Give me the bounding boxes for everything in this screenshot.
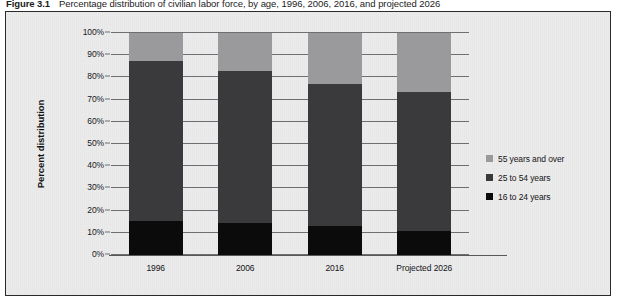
bar-slot: 1996 — [111, 33, 201, 255]
bar-slot: 2006 — [201, 33, 291, 255]
bar-segment[interactable] — [129, 33, 183, 61]
stacked-bar[interactable] — [308, 33, 362, 255]
bar-segment[interactable] — [218, 33, 272, 71]
bar-segment[interactable] — [308, 226, 362, 255]
y-axis-tick-label: 80% — [87, 71, 104, 81]
y-axis-title: Percent distribution — [35, 100, 46, 189]
x-axis-tick-label: Projected 2026 — [396, 263, 452, 273]
stacked-bar[interactable] — [397, 33, 451, 255]
x-axis-tick-label: 2016 — [325, 263, 344, 273]
legend-swatch — [486, 155, 493, 162]
bar-segment[interactable] — [129, 221, 183, 255]
plot-area: 0%10%20%30%40%50%60%70%80%90%100% 199620… — [111, 33, 469, 255]
y-axis-tick-mark — [105, 254, 110, 255]
y-axis-tick-mark — [105, 187, 110, 188]
y-axis-tick-label: 30% — [87, 182, 104, 192]
y-axis-tick-label: 0% — [92, 249, 104, 259]
y-axis-tick-mark — [105, 54, 110, 55]
y-axis-tick-mark — [105, 98, 110, 99]
bar-segment[interactable] — [397, 33, 451, 92]
bar-segment[interactable] — [308, 84, 362, 226]
x-axis-tick-label: 1996 — [146, 263, 165, 273]
y-axis-tick-mark — [105, 143, 110, 144]
bar-segment[interactable] — [218, 71, 272, 223]
stacked-bar[interactable] — [129, 33, 183, 255]
y-axis-tick-label: 70% — [87, 94, 104, 104]
chart-legend: 55 years and over25 to 54 years16 to 24 … — [486, 149, 606, 206]
figure-caption-text: Percentage distribution of civilian labo… — [59, 0, 440, 9]
legend-item[interactable]: 55 years and over — [486, 149, 606, 168]
bar-segment[interactable] — [397, 92, 451, 231]
y-axis-tick-label: 40% — [87, 160, 104, 170]
legend-swatch — [486, 193, 493, 200]
legend-item[interactable]: 16 to 24 years — [486, 187, 606, 206]
figure-caption: Figure 3.1Percentage distribution of civ… — [6, 0, 611, 11]
bar-segment[interactable] — [129, 61, 183, 221]
y-axis-tick-label: 50% — [87, 138, 104, 148]
y-axis-tick-mark — [105, 120, 110, 121]
bar-slot: Projected 2026 — [380, 33, 470, 255]
legend-label: 55 years and over — [498, 154, 564, 164]
bar-slot: 2016 — [290, 33, 380, 255]
y-axis-tick-mark — [105, 165, 110, 166]
x-axis-line — [109, 255, 507, 256]
legend-swatch — [486, 174, 493, 181]
y-axis-tick-label: 20% — [87, 205, 104, 215]
bar-segment[interactable] — [308, 33, 362, 84]
y-axis-tick-mark — [105, 231, 110, 232]
y-axis-tick-label: 90% — [87, 49, 104, 59]
legend-label: 25 to 54 years — [498, 173, 550, 183]
y-axis-tick-mark — [105, 32, 110, 33]
y-axis-tick-label: 60% — [87, 116, 104, 126]
x-axis-tick-label: 2006 — [236, 263, 255, 273]
chart-figure-frame: Percent distribution 0%10%20%30%40%50%60… — [5, 11, 611, 296]
y-axis-tick-mark — [105, 76, 110, 77]
y-axis-tick-label: 100% — [83, 27, 104, 37]
stacked-bar[interactable] — [218, 33, 272, 255]
y-axis-tick-label: 10% — [87, 227, 104, 237]
bar-segment[interactable] — [397, 231, 451, 255]
legend-item[interactable]: 25 to 54 years — [486, 168, 606, 187]
y-axis-tick-mark — [105, 209, 110, 210]
bar-segment[interactable] — [218, 223, 272, 255]
legend-label: 16 to 24 years — [498, 192, 550, 202]
figure-number: Figure 3.1 — [6, 0, 50, 9]
